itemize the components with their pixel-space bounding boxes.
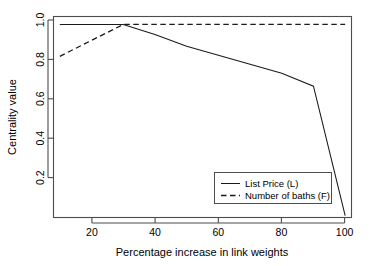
- x-tick-label-20: 20: [86, 226, 98, 238]
- x-tick-label-100: 100: [336, 226, 354, 238]
- series-number-of-baths: [60, 24, 345, 56]
- y-tick-label-0.2: 0.2: [34, 170, 46, 185]
- y-tick-label-0.8: 0.8: [34, 52, 46, 67]
- x-axis-title: Percentage increase in link weights: [116, 246, 289, 258]
- legend-entry-list-price: List Price (L): [245, 178, 298, 189]
- y-axis-title: Centrality value: [6, 79, 18, 155]
- x-tick-label-40: 40: [149, 226, 161, 238]
- chart-legend: List Price (L) Number of baths (F): [215, 173, 332, 204]
- legend-entry-number-of-baths: Number of baths (F): [245, 190, 330, 201]
- x-tick-label-80: 80: [276, 226, 288, 238]
- chart-figure: 1.0 0.8 0.6 0.4 0.2 Centrality value 20 …: [0, 0, 372, 266]
- line-chart: 1.0 0.8 0.6 0.4 0.2 Centrality value 20 …: [0, 0, 372, 266]
- y-axis-ticks: [48, 20, 54, 178]
- y-tick-label-1.0: 1.0: [34, 13, 46, 28]
- y-tick-label-0.4: 0.4: [34, 131, 46, 146]
- y-tick-label-0.6: 0.6: [34, 91, 46, 106]
- x-axis-ticks: [92, 218, 345, 224]
- x-tick-label-60: 60: [212, 226, 224, 238]
